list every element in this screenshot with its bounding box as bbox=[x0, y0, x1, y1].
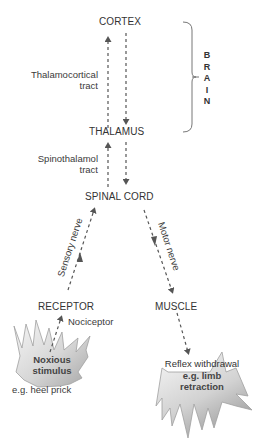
reflex-withdrawal-label: Reflex withdrawal e.g. limb retraction bbox=[152, 359, 252, 393]
thalamocortical-line2: tract bbox=[14, 81, 98, 92]
node-cortex: CORTEX bbox=[99, 16, 141, 27]
node-receptor: RECEPTOR bbox=[38, 301, 94, 312]
node-thalamus: THALAMUS bbox=[89, 126, 144, 137]
brain-letter-r: R bbox=[202, 62, 212, 72]
spinothalamic-tract-label: Spinothalamol tract bbox=[14, 154, 98, 176]
reflex-line3: retraction bbox=[152, 382, 252, 393]
stimulus-example-label: e.g. heel prick bbox=[12, 385, 71, 396]
brain-letter-b: B bbox=[202, 50, 212, 60]
nociceptor-label: Nociceptor bbox=[68, 317, 113, 328]
node-spinal-cord: SPINAL CORD bbox=[85, 191, 154, 202]
muscle-to-reflex-arrow bbox=[177, 313, 188, 352]
brain-letter-a: A bbox=[202, 73, 212, 83]
thalamocortical-tract-label: Thalamocortical tract bbox=[14, 70, 98, 92]
noxious-stimulus-label: Noxious stimulus bbox=[22, 355, 82, 377]
brain-letter-i: I bbox=[202, 85, 212, 95]
noxious-line2: stimulus bbox=[22, 366, 82, 377]
node-muscle: MUSCLE bbox=[155, 301, 197, 312]
sensory-nerve-midarrow-icon bbox=[77, 252, 83, 262]
spinothalamic-line2: tract bbox=[14, 165, 98, 176]
brain-letter-n: N bbox=[202, 96, 212, 106]
reflex-line1: Reflex withdrawal bbox=[152, 359, 252, 370]
